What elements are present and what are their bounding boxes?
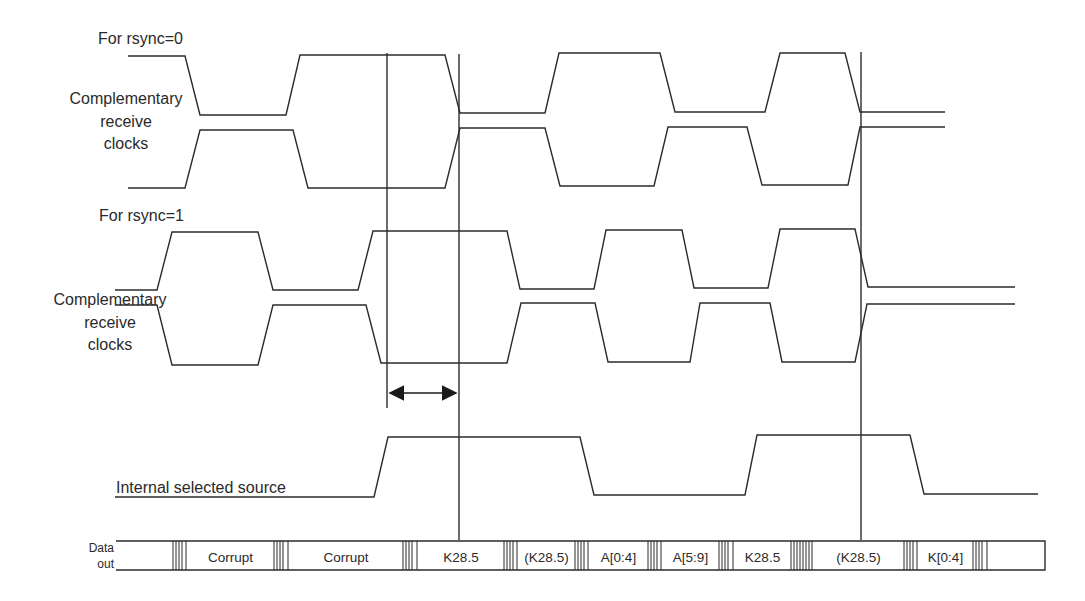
rsync0-clocks-label-line1: Complementary [58, 89, 194, 108]
bus-transition-3 [403, 541, 417, 570]
data-out-cell: Corrupt [289, 549, 403, 567]
rsync0-clocks-label-line3: clocks [58, 134, 194, 153]
bus-transition-7 [719, 541, 733, 570]
data-out-cell: (K28.5) [813, 549, 904, 567]
rsync0-clocks-label-line2: receive [58, 112, 194, 131]
data-out-cell: K[0:4] [918, 549, 973, 567]
bus-transition-6 [648, 541, 661, 570]
data-out-cell: K28.5 [418, 549, 504, 567]
data-out-cell: A[5:9] [662, 549, 719, 567]
data-out-label-line2: out [60, 557, 114, 571]
rsync1-clock-b-waveform [115, 303, 1015, 365]
rsync0-clock-a-waveform [128, 53, 945, 115]
bus-transition-8 [791, 541, 812, 570]
rsync0-heading: For rsync=0 [98, 29, 183, 48]
rsync1-heading: For rsync=1 [99, 206, 184, 225]
data-out-cell: K28.5 [734, 549, 791, 567]
bus-transition-1 [173, 541, 186, 570]
rsync1-clocks-label-line3: clocks [42, 335, 178, 354]
rsync1-clocks-label-line2: receive [42, 313, 178, 332]
rsync1-clock-a-waveform [115, 229, 1015, 290]
bus-transition-9 [904, 541, 917, 570]
data-out-cell: (K28.5) [518, 549, 575, 567]
rsync0-clock-b-waveform [128, 127, 945, 188]
rsync1-clocks-label-line1: Complementary [42, 290, 178, 309]
data-out-label-line1: Data [60, 541, 114, 555]
data-out-cell: A[0:4] [589, 549, 648, 567]
data-out-cell: Corrupt [187, 549, 274, 567]
bus-transition-10 [973, 541, 987, 570]
bus-transition-5 [575, 541, 588, 570]
internal-source-label: Internal selected source [116, 478, 286, 497]
timing-diagram: For rsync=0 Complementary receive clocks… [0, 0, 1085, 601]
bus-transition-4 [504, 541, 517, 570]
bus-transition-2 [274, 541, 288, 570]
